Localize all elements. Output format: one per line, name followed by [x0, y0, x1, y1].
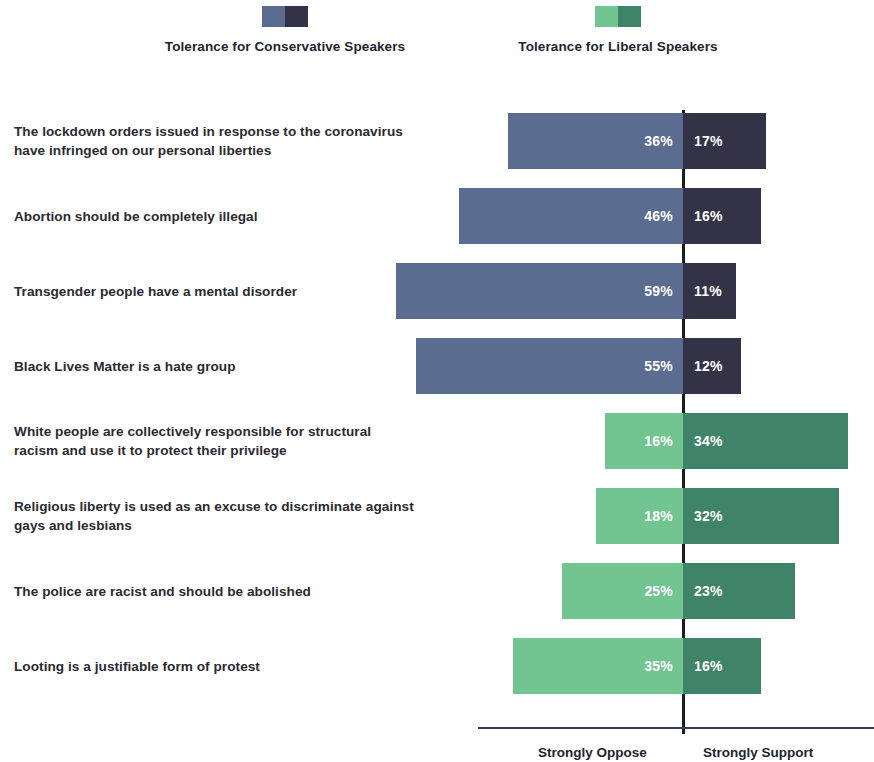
bar-value-oppose: 46% — [644, 208, 673, 224]
chart-row: White people are collectively responsibl… — [0, 413, 874, 469]
bar-segment-support[interactable]: 11% — [683, 263, 736, 319]
bar-segment-oppose[interactable]: 35% — [513, 638, 683, 694]
row-statement-line: racism and use it to protect their privi… — [14, 441, 444, 460]
row-statement-label: Transgender people have a mental disorde… — [14, 282, 444, 301]
diverging-bar[interactable]: 18%32% — [596, 488, 839, 544]
bottom-axis-line — [478, 727, 874, 729]
bar-segment-support[interactable]: 16% — [683, 638, 761, 694]
chart-row: Looting is a justifiable form of protest… — [0, 638, 874, 694]
bar-segment-oppose[interactable]: 46% — [459, 188, 683, 244]
chart-row: Religious liberty is used as an excuse t… — [0, 488, 874, 544]
row-statement-line: Religious liberty is used as an excuse t… — [14, 497, 444, 516]
legend-swatch-support-half — [618, 6, 641, 27]
chart-row: The police are racist and should be abol… — [0, 563, 874, 619]
legend-label-conservative: Tolerance for Conservative Speakers — [160, 39, 410, 54]
chart-row: Transgender people have a mental disorde… — [0, 263, 874, 319]
legend-swatch-support-half — [285, 6, 308, 27]
row-statement-line: Transgender people have a mental disorde… — [14, 282, 444, 301]
bar-segment-oppose[interactable]: 59% — [396, 263, 683, 319]
bar-segment-support[interactable]: 34% — [683, 413, 848, 469]
chart-row: Abortion should be completely illegal46%… — [0, 188, 874, 244]
diverging-bar[interactable]: 59%11% — [396, 263, 736, 319]
bar-value-support: 23% — [694, 583, 723, 599]
legend-label-liberal: Tolerance for Liberal Speakers — [508, 39, 728, 54]
bar-segment-oppose[interactable]: 25% — [562, 563, 684, 619]
bar-segment-oppose[interactable]: 18% — [596, 488, 683, 544]
bar-value-oppose: 55% — [644, 358, 673, 374]
legend-swatch-oppose-half — [262, 6, 285, 27]
row-statement-label: The lockdown orders issued in response t… — [14, 122, 444, 160]
legend-item-conservative: Tolerance for Conservative Speakers — [160, 6, 410, 54]
row-statement-label: Abortion should be completely illegal — [14, 207, 444, 226]
bar-value-oppose: 36% — [644, 133, 673, 149]
bar-value-support: 34% — [694, 433, 723, 449]
row-statement-label: Religious liberty is used as an excuse t… — [14, 497, 444, 535]
diverging-bar[interactable]: 55%12% — [416, 338, 742, 394]
diverging-bar[interactable]: 46%16% — [459, 188, 760, 244]
bar-segment-oppose[interactable]: 16% — [605, 413, 683, 469]
bar-segment-support[interactable]: 16% — [683, 188, 761, 244]
row-statement-line: White people are collectively responsibl… — [14, 422, 444, 441]
bar-segment-support[interactable]: 17% — [683, 113, 766, 169]
bar-value-oppose: 18% — [644, 508, 673, 524]
diverging-bar[interactable]: 36%17% — [508, 113, 766, 169]
row-statement-label: Black Lives Matter is a hate group — [14, 357, 444, 376]
bar-segment-oppose[interactable]: 55% — [416, 338, 683, 394]
bar-value-support: 16% — [694, 658, 723, 674]
bar-value-support: 11% — [694, 283, 722, 299]
legend-swatch-conservative — [262, 6, 308, 27]
chart-row: Black Lives Matter is a hate group55%12% — [0, 338, 874, 394]
bar-value-oppose: 59% — [644, 283, 673, 299]
bar-value-oppose: 25% — [644, 583, 673, 599]
axis-label-strongly-support: Strongly Support — [703, 745, 813, 760]
row-statement-label: Looting is a justifiable form of protest — [14, 657, 444, 676]
bar-value-support: 32% — [694, 508, 723, 524]
bar-segment-oppose[interactable]: 36% — [508, 113, 683, 169]
row-statement-line: Black Lives Matter is a hate group — [14, 357, 444, 376]
bar-value-support: 17% — [694, 133, 723, 149]
axis-label-strongly-oppose: Strongly Oppose — [538, 745, 647, 760]
chart-plot-area: Strongly Oppose Strongly Support The loc… — [0, 70, 874, 730]
row-statement-label: White people are collectively responsibl… — [14, 422, 444, 460]
bar-value-oppose: 35% — [644, 658, 673, 674]
chart-legend: Tolerance for Conservative SpeakersToler… — [0, 0, 874, 70]
diverging-bar[interactable]: 25%23% — [562, 563, 795, 619]
row-statement-line: have infringed on our personal liberties — [14, 141, 444, 160]
legend-swatch-liberal — [595, 6, 641, 27]
row-statement-line: Looting is a justifiable form of protest — [14, 657, 444, 676]
row-statement-label: The police are racist and should be abol… — [14, 582, 444, 601]
diverging-bar[interactable]: 35%16% — [513, 638, 761, 694]
bar-segment-support[interactable]: 32% — [683, 488, 839, 544]
bar-value-support: 12% — [694, 358, 723, 374]
bar-segment-support[interactable]: 12% — [683, 338, 741, 394]
row-statement-line: The lockdown orders issued in response t… — [14, 122, 444, 141]
row-statement-line: Abortion should be completely illegal — [14, 207, 444, 226]
diverging-bar[interactable]: 16%34% — [605, 413, 848, 469]
bar-value-support: 16% — [694, 208, 723, 224]
bar-segment-support[interactable]: 23% — [683, 563, 795, 619]
row-statement-line: gays and lesbians — [14, 516, 444, 535]
row-statement-line: The police are racist and should be abol… — [14, 582, 444, 601]
legend-swatch-oppose-half — [595, 6, 618, 27]
chart-row: The lockdown orders issued in response t… — [0, 113, 874, 169]
legend-item-liberal: Tolerance for Liberal Speakers — [508, 6, 728, 54]
bar-value-oppose: 16% — [644, 433, 673, 449]
